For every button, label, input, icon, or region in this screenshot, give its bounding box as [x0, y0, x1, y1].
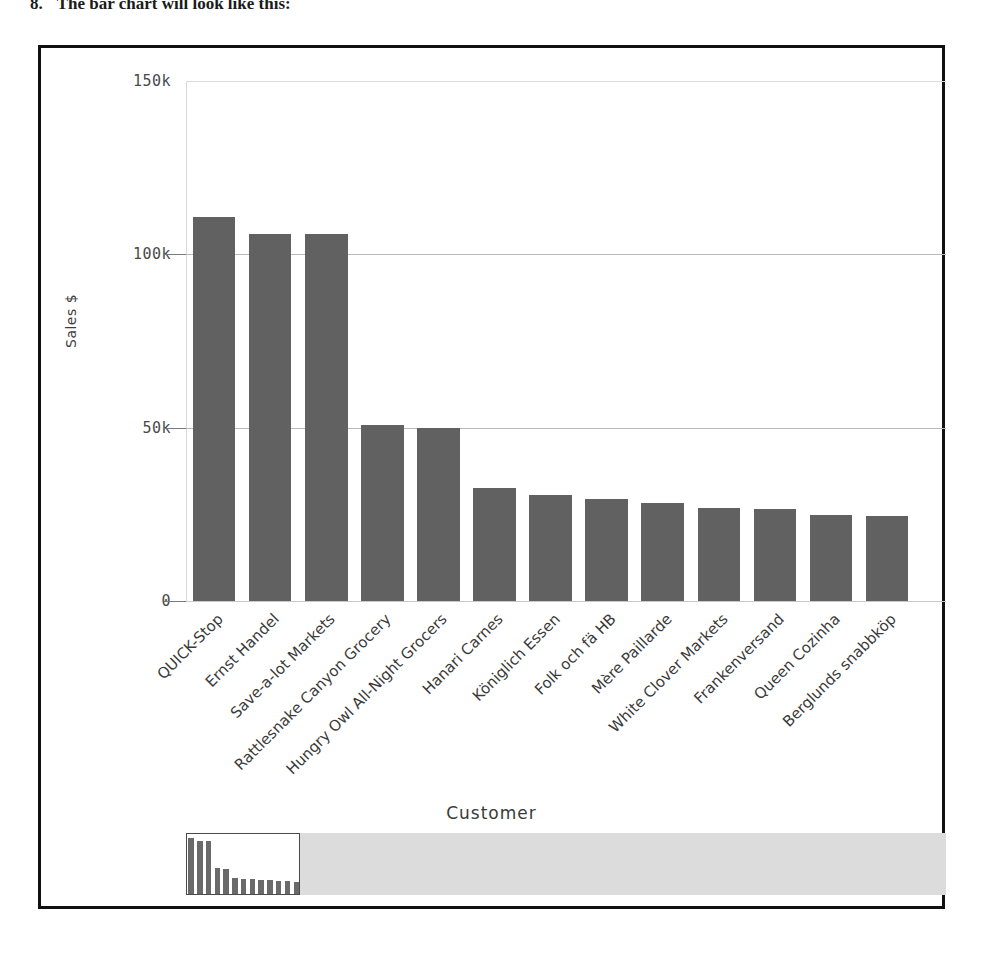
figure-caption: 8.The bar chart will look like this:	[30, 0, 630, 14]
x-axis-baseline	[186, 601, 946, 602]
range-selector-track[interactable]	[186, 833, 946, 895]
y-axis-tick-label: 150k	[51, 72, 171, 90]
y-axis-tick-label: 50k	[51, 419, 171, 437]
gridline	[186, 428, 946, 429]
range-selector-mini-bar	[206, 841, 211, 894]
y-axis-tick-label: 0	[51, 592, 171, 610]
bar[interactable]	[305, 234, 348, 601]
caption-text: The bar chart will look like this:	[57, 0, 291, 13]
chart-panel: Sales $ 150k100k50k0 QUICK-StopErnst Han…	[38, 45, 945, 909]
bar[interactable]	[529, 495, 572, 601]
range-selector-mini-bar	[197, 841, 202, 894]
bar[interactable]	[866, 516, 909, 601]
y-axis-tick-mark	[164, 428, 186, 429]
range-selector-mini-bar	[241, 879, 246, 894]
bar[interactable]	[473, 488, 516, 601]
range-selector-right-handle[interactable]	[298, 834, 301, 894]
x-axis-tick-labels: QUICK-StopErnst HandelSave-a-lot Markets…	[186, 604, 966, 804]
bar[interactable]	[641, 503, 684, 601]
bar[interactable]	[249, 234, 292, 601]
caption-step-number: 8.	[30, 0, 43, 13]
gridline	[186, 254, 946, 255]
range-selector-left-handle[interactable]	[185, 834, 188, 894]
bar[interactable]	[193, 217, 236, 601]
x-axis-title: Customer	[41, 803, 942, 823]
range-selector-mini-bar	[188, 838, 193, 894]
range-selector-mini-bar	[250, 879, 255, 894]
bar[interactable]	[810, 515, 853, 601]
bar[interactable]	[417, 428, 460, 601]
y-axis-tick-mark	[164, 254, 186, 255]
bar[interactable]	[754, 509, 797, 601]
bar[interactable]	[361, 425, 404, 601]
plot-area	[186, 81, 946, 601]
y-axis-title: Sales $	[63, 294, 79, 348]
range-selector-mini-bar	[215, 868, 220, 894]
bar[interactable]	[585, 499, 628, 601]
y-axis-tick-label: 100k	[51, 245, 171, 263]
bar[interactable]	[698, 508, 741, 601]
range-selector-mini-bar	[258, 880, 263, 894]
y-axis-tick-mark	[164, 601, 186, 602]
range-selector-mini-bar	[223, 869, 228, 894]
range-selector-mini-bar	[232, 878, 237, 895]
range-selector-window[interactable]	[186, 833, 300, 895]
range-selector-mini-bar	[276, 881, 281, 894]
range-selector-window-bars	[187, 834, 299, 894]
range-selector-mini-bar	[285, 881, 290, 894]
range-selector-mini-bar	[267, 880, 272, 894]
